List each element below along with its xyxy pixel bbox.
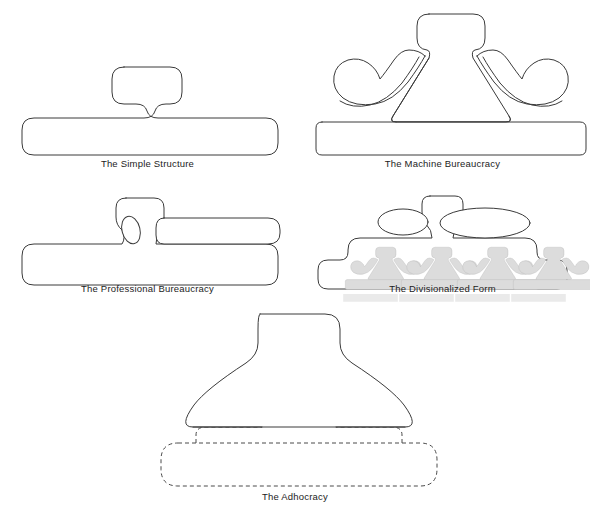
figure-adhocracy: The Adhocracy xyxy=(0,305,590,519)
shape-divisionalized-support-staff-ellipse xyxy=(440,208,530,238)
caption-machine-bureaucracy: The Machine Bureaucracy xyxy=(295,158,590,170)
shape-adhocracy-right-connector xyxy=(336,427,402,443)
figure-simple-structure: The Simple Structure xyxy=(0,0,295,170)
shape-adhocracy-dashed-operating-core xyxy=(161,443,437,486)
figure-divisionalized-form: The Divisionalized Form xyxy=(295,190,590,300)
shape-machine-operating-core xyxy=(316,122,586,155)
figure-professional-bureaucracy: The Professional Bureaucracy xyxy=(0,190,295,300)
shape-professional-support-staff-lozenge xyxy=(156,218,280,244)
shape-adhocracy-left-connector xyxy=(196,427,262,443)
shape-adhocracy-administrative-body xyxy=(186,314,413,427)
caption-professional-bureaucracy: The Professional Bureaucracy xyxy=(0,283,295,295)
caption-simple-structure: The Simple Structure xyxy=(0,158,295,170)
shape-simple-structure-body xyxy=(22,67,278,155)
shape-divisionalized-technostructure-ellipse xyxy=(378,209,428,235)
caption-adhocracy: The Adhocracy xyxy=(0,491,590,503)
figure-machine-bureaucracy: The Machine Bureaucracy xyxy=(295,0,590,170)
diagram-canvas: The Simple Structure The Machine Bureauc… xyxy=(0,0,590,519)
caption-divisionalized-form: The Divisionalized Form xyxy=(295,283,590,295)
